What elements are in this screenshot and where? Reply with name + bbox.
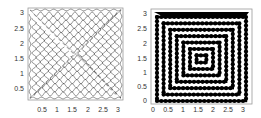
left-ytick: 0.5: [14, 85, 24, 92]
right-x-ticks: 0 0.5 1 1.5 2 2.5 3: [151, 106, 245, 113]
left-ytick: 1.5: [14, 55, 24, 62]
right-xtick: 0.5: [163, 106, 173, 113]
left-ytick: 2.5: [14, 25, 24, 32]
right-y-ticks: 3 2.5 2 1.5 1 0.5 0: [137, 10, 147, 104]
left-xtick: 0.5: [37, 106, 47, 113]
left-ytick: 3: [20, 9, 24, 16]
right-xtick: 1: [181, 106, 185, 113]
right-ytick: 0: [143, 97, 147, 104]
right-xtick: 2: [211, 106, 215, 113]
right-xtick: 2.5: [223, 106, 233, 113]
left-x-ticks: 0.5 1 1.5 2 2.5 3: [37, 106, 120, 113]
right-xtick: 1.5: [193, 106, 203, 113]
right-ytick: 2.5: [137, 25, 147, 32]
left-xtick: 2: [86, 106, 90, 113]
left-xtick: 2.5: [98, 106, 108, 113]
left-y-ticks: 3 2.5 2 1.5 1 0.5: [14, 9, 24, 92]
figure: 3 2.5 2 1.5 1 0.5 0.5 1 1.5 2 2.5 3 3 2.…: [0, 0, 261, 118]
left-ytick: 2: [20, 40, 24, 47]
left-xtick: 3: [116, 106, 120, 113]
left-xtick: 1: [55, 106, 59, 113]
left-xtick: 1.5: [67, 106, 77, 113]
right-ytick: 1: [143, 69, 147, 76]
left-axes: 3 2.5 2 1.5 1 0.5 0.5 1 1.5 2 2.5 3: [14, 8, 123, 113]
right-ytick: 0.5: [137, 83, 147, 90]
left-ytick: 1: [20, 70, 24, 77]
right-axes: 3 2.5 2 1.5 1 0.5 0 0 0.5 1 1.5 2 2.5 3: [137, 9, 252, 113]
right-ytick: 3: [143, 10, 147, 17]
right-xtick: 3: [241, 106, 245, 113]
right-xtick: 0: [151, 106, 155, 113]
right-ytick: 2: [143, 40, 147, 47]
right-ytick: 1.5: [137, 55, 147, 62]
